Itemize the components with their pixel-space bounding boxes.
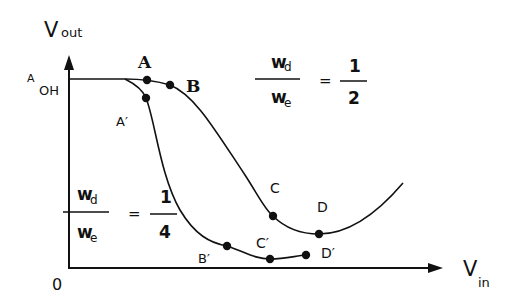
axes (69, 66, 432, 269)
y-axis-arrow-icon (64, 55, 74, 70)
point-c (269, 212, 277, 220)
voh-label-sub: OH (39, 83, 59, 98)
ratio-quarter-equals: = (128, 205, 141, 223)
transfer-characteristic-diagram: V out V in 0 A OH A B A′ C D B′ C′ D′ w … (0, 0, 511, 304)
label-b: B (186, 76, 200, 96)
ratio-half-value-num: 1 (349, 56, 361, 76)
point-b-prime (223, 242, 231, 250)
curve-ratio-half (125, 79, 403, 234)
ratio-quarter-value-num: 1 (160, 187, 172, 207)
x-axis-arrow-icon (428, 263, 443, 273)
x-axis-label-sub: in (478, 275, 490, 290)
label-a: A (137, 52, 152, 72)
ratio-quarter-den-sub: e (90, 231, 97, 245)
label-d: D (317, 199, 328, 215)
label-d-prime: D′ (321, 245, 335, 261)
label-c-prime: C′ (256, 235, 269, 251)
point-c-prime (266, 255, 274, 263)
ratio-quarter-num-sub: d (90, 193, 98, 207)
point-a (143, 76, 151, 84)
ratio-quarter-value-den: 4 (159, 222, 171, 242)
y-axis-label: V (44, 18, 59, 42)
ratio-half-den-sub: e (284, 96, 291, 110)
label-b-prime: B′ (198, 251, 210, 266)
voh-label-prefix: A (27, 72, 35, 85)
point-b (166, 81, 174, 89)
ratio-half-value-den: 2 (348, 88, 360, 108)
ratio-quarter: w d w e = 1 4 (69, 184, 177, 245)
origin-label: 0 (52, 275, 62, 294)
x-axis-label: V (463, 257, 478, 281)
label-c: C (270, 180, 280, 196)
point-d (315, 230, 323, 238)
ratio-half-equals: = (319, 72, 332, 90)
point-d-prime (302, 251, 310, 259)
ratio-half: w d w e = 1 2 (255, 52, 367, 110)
label-a-prime: A′ (116, 114, 128, 129)
ratio-half-num-sub: d (284, 60, 292, 74)
point-a-prime (142, 94, 150, 102)
y-axis-label-sub: out (61, 25, 82, 40)
